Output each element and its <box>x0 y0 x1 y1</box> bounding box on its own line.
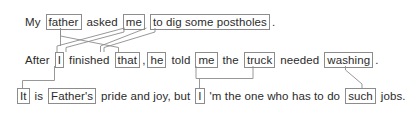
token-truck[interactable]: truck <box>244 52 275 68</box>
coreference-diagram: Myfatheraskedmeto dig some postholes. Af… <box>0 0 419 116</box>
token-my: My <box>24 15 42 29</box>
token-asked: asked <box>86 15 119 29</box>
token-to-dig-some-postholes[interactable]: to dig some postholes <box>150 14 270 30</box>
token-he[interactable]: he <box>147 52 166 68</box>
link-postholes-x <box>104 28 155 52</box>
token-is: is <box>34 89 45 103</box>
token-i-2[interactable]: I <box>55 52 64 68</box>
token-washing[interactable]: washing <box>324 52 373 68</box>
token-pride-and-joy-but: pride and joy, but <box>100 89 191 103</box>
token-told: told <box>170 53 191 67</box>
token-father[interactable]: father <box>46 14 82 30</box>
sentence-line-3: ItisFather'spride and joy, butI'm the on… <box>16 88 407 104</box>
token-finished: finished <box>68 53 110 67</box>
token-im-the-one-who-has-to-do: 'm the one who has to do <box>209 89 342 103</box>
sentence-line-1: Myfatheraskedmeto dig some postholes. <box>24 14 276 30</box>
token-it[interactable]: It <box>17 88 30 104</box>
token-after: After <box>24 53 51 67</box>
sentence-line-2: AfterIfinishedthat,hetoldmethetruckneede… <box>24 52 379 68</box>
link-father-down-to-he <box>61 28 120 52</box>
token-comma-2: , <box>141 53 146 67</box>
link-postholes-to-that <box>101 28 147 52</box>
link-washing-to-such <box>346 66 363 88</box>
token-me-1[interactable]: me <box>123 14 145 30</box>
token-that[interactable]: that <box>115 52 141 68</box>
link-me-x <box>66 28 124 52</box>
token-such[interactable]: such <box>345 88 376 104</box>
token-the: the <box>222 53 240 67</box>
token-needed: needed <box>279 53 320 67</box>
token-period-1: . <box>271 15 276 29</box>
token-jobs: jobs. <box>380 89 407 103</box>
token-i-3[interactable]: I <box>195 88 204 104</box>
token-me-2[interactable]: me <box>195 52 217 68</box>
link-I-to-It <box>23 66 55 88</box>
token-period-2: . <box>374 53 379 67</box>
link-me-to-I <box>57 28 125 52</box>
link-father-x <box>61 28 119 52</box>
token-fathers[interactable]: Father's <box>48 88 96 104</box>
